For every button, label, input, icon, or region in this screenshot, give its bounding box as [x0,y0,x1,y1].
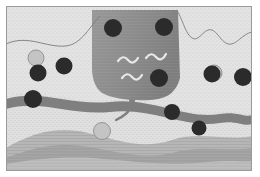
clast-dark [234,68,252,86]
geologic-cross-section-figure [0,0,260,177]
cross-section-canvas [0,0,260,177]
cross-section-content [6,6,252,171]
clast-light [28,50,44,66]
clast-dark [164,104,180,120]
clast-dark [24,90,42,108]
clast-light [94,123,111,140]
clast-dark [192,121,207,136]
clast-dark [155,18,173,36]
clast-dark [150,69,168,87]
clast-dark [104,19,122,37]
clast-dark [204,66,221,83]
clast-dark [56,58,73,75]
clast-dark [30,65,47,82]
